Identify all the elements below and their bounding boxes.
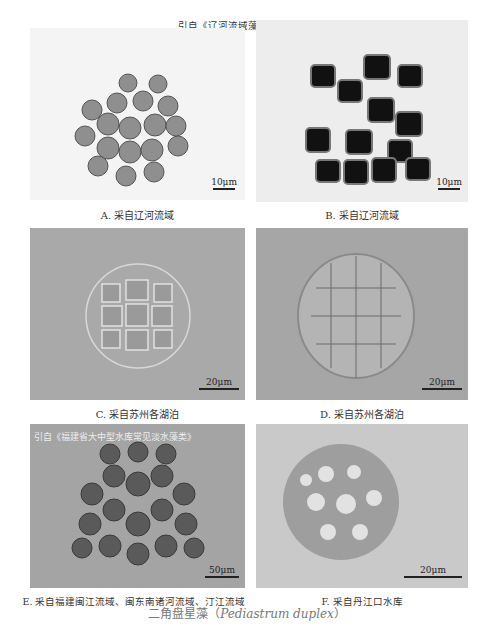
caption-a: A. 采自辽河流域 [30,207,245,222]
caption-d: D. 采自苏州各湖泊 [256,406,468,421]
scale-bar-c: 20μm [199,377,239,390]
micrograph-d: 20μm [256,228,468,400]
figure-title: 二角盘星藻（Pediastrum duplex） [0,604,494,621]
colony-f-image [256,424,468,588]
micrograph-f: 20μm [256,424,468,588]
caption-b: B. 采自辽河流域 [256,207,468,222]
scale-bar-d: 20μm [422,377,462,390]
caption-c: C. 采自苏州各湖泊 [30,406,245,421]
latin-name: Pediastrum duplex [220,607,334,621]
micrograph-e: 引自《福建省大中型水库常见淡水藻类》 50μm [30,424,245,588]
source-note-e: 引自《福建省大中型水库常见淡水藻类》 [34,430,196,443]
colony-e-image [30,424,245,588]
micrograph-c: 20μm [30,228,245,400]
micrograph-b: 10μm [256,20,468,202]
scale-bar-f: 20μm [404,565,462,578]
micrograph-a: 10μm [30,28,245,200]
scale-bar-e: 50μm [205,565,239,578]
scale-bar-b: 10μm [436,177,462,190]
colony-c-image [30,228,245,400]
scale-bar-a: 10μm [211,177,237,190]
colony-d-image [256,228,468,400]
colony-b-image [256,20,468,202]
colony-a-image [30,28,245,200]
